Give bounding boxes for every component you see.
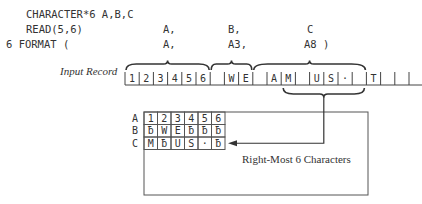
storage-row-label: A [132, 113, 138, 124]
diagram-canvas: 123456WEAMUS·TA123456BƀWEƀƀƀCMƀUS·ƀ [0, 0, 422, 204]
input-record-cell: U [314, 73, 320, 84]
rightmost-annotation: Right-Most 6 Characters [242, 153, 351, 165]
arrowhead-icon [228, 140, 237, 146]
input-record-cell: 5 [186, 73, 192, 84]
input-record-cell: 1 [129, 73, 135, 84]
storage-cell: 1 [148, 113, 154, 124]
storage-cell: ƀ [148, 125, 154, 136]
storage-row-label: B [132, 125, 138, 136]
storage-cell: S [188, 138, 194, 149]
arrow-line [236, 97, 324, 143]
storage-cell: 3 [175, 113, 181, 124]
storage-cell: ƀ [188, 125, 194, 136]
input-record-cell: A [271, 73, 277, 84]
input-record-cell: · [342, 73, 348, 84]
storage-cell: · [202, 138, 208, 149]
rightmost-brace [283, 88, 364, 98]
storage-cell: 2 [161, 113, 167, 124]
input-record-cell: 4 [172, 73, 178, 84]
field-brace-b [211, 60, 252, 70]
storage-cell: W [161, 125, 168, 136]
input-record-cell: T [370, 73, 376, 84]
storage-cell: E [175, 125, 181, 136]
input-record-cell: 2 [143, 73, 149, 84]
storage-cell: ƀ [161, 138, 167, 149]
storage-cell: 6 [215, 113, 221, 124]
input-record-cell: 3 [157, 73, 163, 84]
storage-cell: ƀ [215, 125, 221, 136]
input-record-cell: S [328, 73, 334, 84]
input-record-cell: M [285, 73, 291, 84]
storage-cell: 4 [188, 113, 194, 124]
storage-cell: ƀ [215, 138, 221, 149]
storage-cell: M [148, 138, 154, 149]
field-brace-c [254, 60, 366, 70]
storage-cell: U [175, 138, 181, 149]
input-record-cell: 6 [200, 73, 206, 84]
storage-cell: 5 [202, 113, 208, 124]
field-brace-a [126, 60, 209, 70]
input-record-cell: W [228, 73, 235, 84]
storage-cell: ƀ [202, 125, 208, 136]
input-record-cell: E [243, 73, 249, 84]
storage-row-label: C [132, 138, 138, 149]
